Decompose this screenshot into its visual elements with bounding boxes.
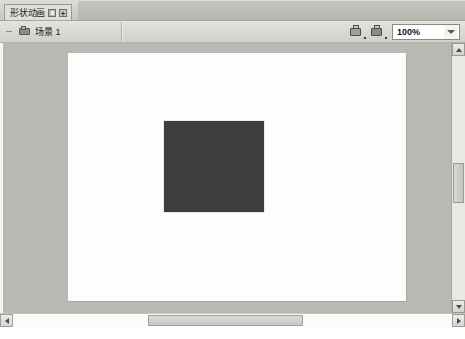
scroll-left-arrow-icon[interactable] <box>0 314 13 327</box>
tab-strip-empty-area <box>78 1 465 20</box>
horizontal-scroll-thumb[interactable] <box>148 315 303 326</box>
canvas-workspace[interactable] <box>0 43 465 313</box>
editor-window: 形状动画 场景 1 100% <box>0 0 465 339</box>
scroll-down-arrow-icon[interactable] <box>452 300 465 313</box>
toolbar-separator <box>121 22 122 42</box>
scroll-up-arrow-icon[interactable] <box>452 43 465 56</box>
chevron-down-icon[interactable] <box>444 25 457 39</box>
edit-scene-icon[interactable] <box>350 25 363 38</box>
status-bar <box>0 327 465 339</box>
back-arrow-icon[interactable] <box>5 28 13 36</box>
edit-scene-icon-body <box>350 28 361 36</box>
scene-toolbar: 场景 1 100% <box>0 21 465 43</box>
zoom-level-combobox[interactable]: 100% <box>392 24 460 40</box>
close-box-icon[interactable] <box>59 9 67 17</box>
edit-symbol-icon-body <box>371 28 382 36</box>
vertical-scroll-thumb[interactable] <box>453 163 464 203</box>
tab-bar: 形状动画 <box>0 0 465 21</box>
pin-icon[interactable] <box>48 9 56 17</box>
rectangle-shape[interactable] <box>163 120 265 213</box>
edit-symbol-icon-dot <box>385 37 387 39</box>
zoom-level-value: 100% <box>397 27 420 37</box>
canvas-page[interactable] <box>68 53 406 301</box>
edit-symbol-icon[interactable] <box>371 25 384 38</box>
vertical-scrollbar[interactable] <box>451 43 465 313</box>
layer-name-label: 场景 <box>35 27 53 37</box>
layer-icon <box>19 26 31 37</box>
tab-shape-animation[interactable]: 形状动画 <box>4 4 72 20</box>
layer-number-label: 1 <box>56 27 61 37</box>
edit-scene-icon-dot <box>364 37 366 39</box>
scroll-right-arrow-icon[interactable] <box>452 314 465 327</box>
tab-label: 形状动画 <box>10 8 45 18</box>
horizontal-scrollbar[interactable] <box>0 313 465 327</box>
